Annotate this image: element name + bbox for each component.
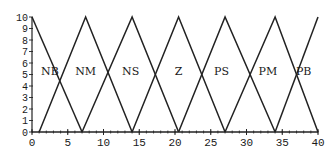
y-tick-label: 7 <box>22 47 28 58</box>
set-label-pb: PB <box>296 65 312 78</box>
set-label-pm: PM <box>259 65 278 78</box>
y-tick-label: 5 <box>22 70 28 81</box>
x-tick-label: 40 <box>311 137 324 149</box>
x-tick-label: 30 <box>240 137 253 149</box>
x-tick-label: 10 <box>97 137 110 149</box>
set-label-ps: PS <box>214 65 229 78</box>
y-tick-label: 0 <box>22 128 28 139</box>
x-tick-label: 25 <box>204 137 217 149</box>
y-tick-label: 10 <box>16 13 28 24</box>
membership-function-chart: 0123456789100510152025303540 NBNMNSZPSPM… <box>0 0 331 150</box>
y-tick-label: 6 <box>22 59 28 70</box>
set-label-nb: NB <box>41 65 59 78</box>
x-tick-label: 15 <box>133 137 146 149</box>
axes: 0123456789100510152025303540 <box>16 13 325 150</box>
y-tick-label: 9 <box>22 24 28 35</box>
x-tick-label: 35 <box>276 137 289 149</box>
x-tick-label: 20 <box>168 137 181 149</box>
set-label-ns: NS <box>122 65 139 78</box>
set-label-nm: NM <box>75 65 96 78</box>
y-tick-label: 3 <box>22 93 28 104</box>
x-tick-label: 5 <box>64 137 71 149</box>
y-tick-label: 2 <box>22 105 28 116</box>
set-labels: NBNMNSZPSPMPB <box>41 65 311 78</box>
y-tick-label: 4 <box>22 82 28 93</box>
x-tick-label: 0 <box>29 137 36 149</box>
y-tick-label: 8 <box>22 36 28 47</box>
y-tick-label: 1 <box>22 116 28 127</box>
set-label-z: Z <box>175 65 183 78</box>
